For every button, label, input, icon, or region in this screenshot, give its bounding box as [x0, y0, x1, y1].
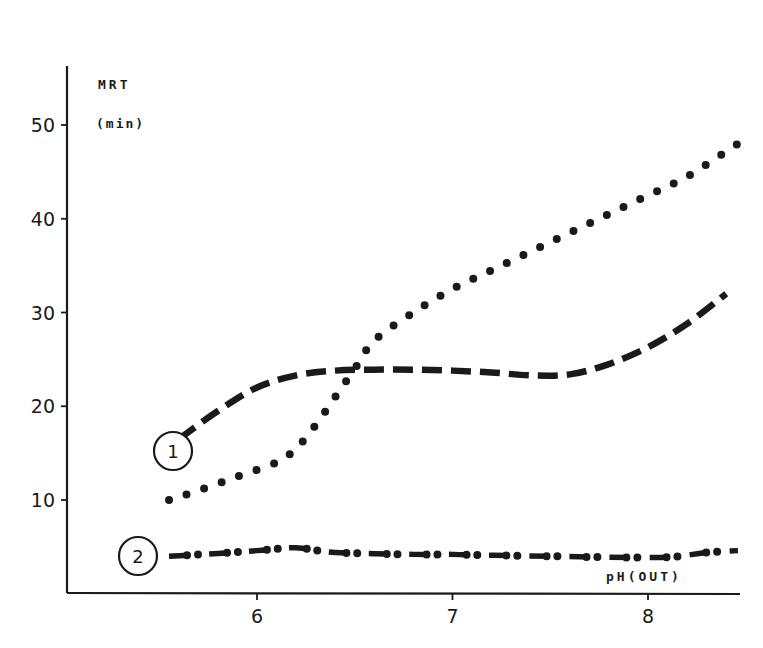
- series-dashed-line: [179, 294, 726, 439]
- y-tick-label: 50: [31, 114, 55, 136]
- curve-1-marker-label: 1: [167, 441, 178, 462]
- y-axis-title: MRT: [98, 77, 130, 92]
- y-axis-unit: (min): [96, 116, 145, 131]
- curve-2-marker: 2: [119, 537, 157, 575]
- y-tick-label: 40: [31, 208, 55, 230]
- x-tick-label: 6: [251, 605, 263, 627]
- y-tick-label: 20: [31, 395, 55, 417]
- x-tick-label: 8: [642, 605, 654, 627]
- y-tick-label: 30: [31, 302, 55, 324]
- x-tick-label: 7: [446, 605, 458, 627]
- series-dotted-line: [169, 144, 738, 500]
- curve-1-marker: 1: [154, 432, 192, 470]
- mrt-vs-ph-chart: 1020304050678 MRT (min) pH(OUT) 1 2: [0, 0, 763, 648]
- x-axis-line: [67, 593, 740, 594]
- annotations: MRT (min) pH(OUT) 1 2: [96, 77, 682, 584]
- series-group: [169, 144, 738, 558]
- curve-2-marker-label: 2: [132, 546, 143, 567]
- series-dash-dot-line: [169, 548, 738, 558]
- x-axis-title: pH(OUT): [606, 569, 682, 584]
- y-tick-label: 10: [31, 489, 55, 511]
